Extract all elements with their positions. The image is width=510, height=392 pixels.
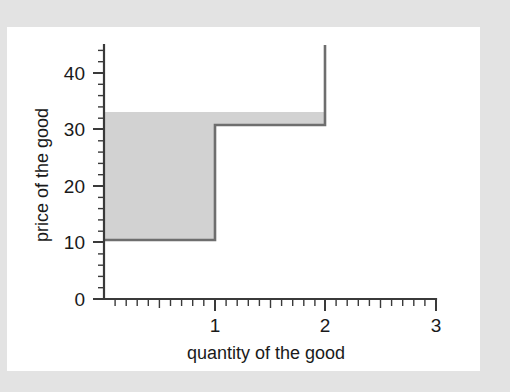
step-supply-chart: 0 10 20 30 40 1 2 3 quantity of the good… bbox=[7, 27, 480, 371]
x-tick-label-1: 1 bbox=[210, 315, 221, 336]
x-tick-label-3: 3 bbox=[431, 315, 442, 336]
x-axis-title: quantity of the good bbox=[187, 343, 345, 363]
y-tick-label-20: 20 bbox=[64, 176, 85, 197]
x-axis-minor-ticks bbox=[115, 299, 425, 308]
y-tick-label-30: 30 bbox=[64, 119, 85, 140]
y-axis-title: price of the good bbox=[32, 108, 52, 242]
y-tick-label-10: 10 bbox=[64, 232, 85, 253]
x-axis-tick-labels: 1 2 3 bbox=[210, 315, 442, 336]
y-tick-label-40: 40 bbox=[64, 63, 85, 84]
plot-panel: 0 10 20 30 40 1 2 3 quantity of the good… bbox=[7, 27, 480, 371]
figure-root: 0 10 20 30 40 1 2 3 quantity of the good… bbox=[0, 0, 510, 392]
shaded-region-second-unit bbox=[215, 112, 325, 125]
y-tick-label-0: 0 bbox=[74, 289, 85, 310]
y-axis-tick-labels: 0 10 20 30 40 bbox=[64, 63, 85, 310]
shaded-region-first-unit bbox=[104, 112, 215, 240]
x-tick-label-2: 2 bbox=[320, 315, 331, 336]
